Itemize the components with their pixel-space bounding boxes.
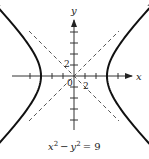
y-tick-label-2: 2 <box>64 59 70 69</box>
hyperbola-figure: x y 0 2 2 x2−y2= 9 <box>0 0 149 159</box>
x-tick-label-2: 2 <box>83 81 89 91</box>
x-axis-label: x <box>136 71 142 82</box>
equation-caption: x2−y2= 9 <box>48 140 101 152</box>
y-axis-label: y <box>70 5 77 16</box>
origin-label: 0 <box>67 78 73 88</box>
